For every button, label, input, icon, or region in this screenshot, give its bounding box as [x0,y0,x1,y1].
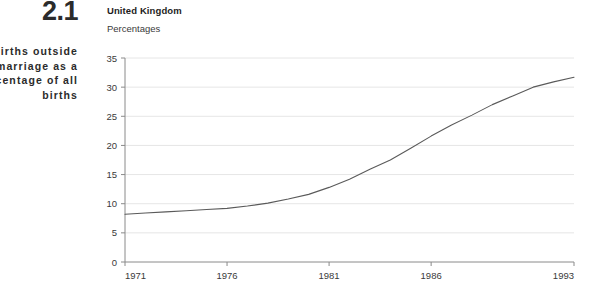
figure-container: 2.1 Live births outside marriage as a pe… [0,0,589,288]
line-chart-svg: 05101520253035 19711976198119861993 [0,0,589,288]
x-tick-label: 1993 [553,270,574,281]
y-tick-label: 20 [106,140,117,151]
y-tick-label: 30 [106,82,117,93]
x-axis-ticks-group: 19711976198119861993 [125,262,574,281]
chart-plot-area: 05101520253035 19711976198119861993 [0,0,589,288]
x-tick-label: 1976 [216,270,237,281]
y-axis-ticks-group: 05101520253035 [106,53,125,268]
gridlines-group [125,58,574,233]
y-tick-label: 15 [106,169,117,180]
y-tick-label: 25 [106,111,117,122]
x-tick-label: 1971 [125,270,146,281]
y-tick-label: 35 [106,53,117,64]
x-tick-label: 1981 [319,270,340,281]
y-tick-label: 10 [106,198,117,209]
x-tick-label: 1986 [421,270,442,281]
y-tick-label: 0 [112,257,117,268]
y-tick-label: 5 [112,227,117,238]
